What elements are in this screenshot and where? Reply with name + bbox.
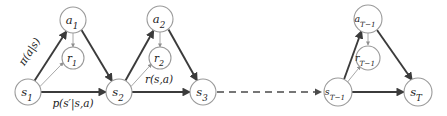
action-transition-edge-T1: [377, 30, 412, 80]
node-s1: s1: [15, 79, 41, 105]
node-r2: r2: [149, 47, 171, 69]
diagram-canvas: s1 a1 r1 s2 a2 r2 s3 sT−1: [0, 0, 447, 116]
node-s3: s3: [190, 79, 216, 105]
node-sT: sT: [404, 78, 432, 106]
reward-edge-label: r(s,a): [145, 73, 173, 85]
mdp-trajectory-diagram: s1 a1 r1 s2 a2 r2 s3 sT−1: [0, 0, 447, 116]
node-r1: r1: [62, 47, 84, 69]
action-transition-edge-1: [82, 30, 113, 81]
transition-edge-label: p(s′|s,a): [52, 97, 93, 111]
node-rT-1: rT−1: [355, 46, 380, 70]
node-a2: a2: [147, 6, 173, 32]
node-s2: s2: [106, 79, 132, 105]
node-aT-1: aT−1: [354, 5, 382, 33]
policy-edge-label: π(a|s): [15, 35, 44, 69]
node-a1: a1: [60, 7, 86, 33]
node-sT-1: sT−1: [324, 78, 352, 106]
